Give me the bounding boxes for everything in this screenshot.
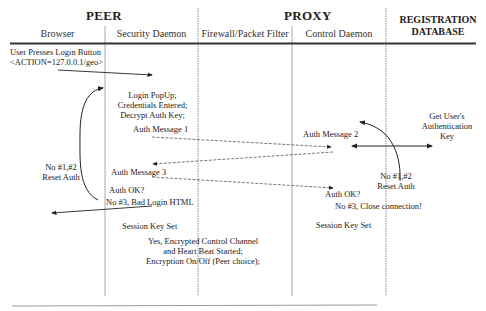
label-proxy-close-connection: No #3, Close connection! [335, 201, 422, 211]
group-label-registration-database: REGISTRATION DATABASE [393, 14, 483, 38]
label-peer-bad-login: No #3, Bad Login HTML [106, 197, 194, 207]
user-login-line-1: User Presses Login Button [10, 47, 103, 57]
arrow-to-proxy-auth-ok [152, 177, 333, 188]
column-browser: Browser [10, 28, 105, 39]
bottom-rule [12, 305, 377, 306]
label-peer-session-key: Session Key Set [122, 221, 177, 231]
proxy-reset-line-2: Reset Auth [370, 181, 422, 191]
column-control-daemon: Control Daemon [292, 28, 386, 39]
label-auth-message-3: Auth Message 3 [111, 167, 166, 177]
step-proxy-reset-auth: No #1,#2 Reset Auth [370, 171, 422, 191]
login-popup-line-2: Credentials Entered; [110, 100, 195, 110]
user-login-line-2: <ACTION=127.0.0.1/geo> [10, 57, 103, 67]
arrow-bad-login-to-browser [52, 206, 152, 213]
proxy-reset-line-1: No #1,#2 [370, 171, 422, 181]
encrypted-line-1: Yes, Encrypted Control Channel [128, 236, 278, 246]
login-popup-line-3: Decrypt Auth Key; [110, 110, 195, 120]
step-get-auth-key: Get User's Authentication Key [407, 111, 486, 141]
arrow-auth-message-3 [153, 152, 333, 164]
get-key-line-1: Get User's [407, 111, 486, 121]
encrypted-line-3: Encryption On/Off (Peer choice); [128, 256, 278, 266]
label-peer-auth-ok: Auth OK? [109, 185, 144, 195]
step-login-popup: Login PopUp; Credentials Entered; Decryp… [110, 90, 195, 120]
arrow-peer-reset-auth [80, 88, 103, 200]
peer-reset-line-2: Reset Auth [36, 172, 86, 182]
registration-line-2: DATABASE [393, 26, 483, 38]
label-auth-message-1: Auth Message 1 [133, 124, 188, 134]
registration-line-1: REGISTRATION [393, 14, 483, 26]
column-firewall-packet-filter: Firewall/Packet Filter [198, 28, 292, 39]
login-popup-line-1: Login PopUp; [110, 90, 195, 100]
label-proxy-session-key: Session Key Set [316, 220, 371, 230]
column-security-daemon: Security Daemon [105, 28, 198, 39]
get-key-line-2: Authentication [407, 121, 486, 131]
group-label-proxy: PROXY [284, 8, 332, 24]
step-encrypted-channel: Yes, Encrypted Control Channel and Heart… [128, 236, 278, 266]
peer-reset-line-1: No #1,#2 [36, 162, 86, 172]
step-peer-reset-auth: No #1,#2 Reset Auth [36, 162, 86, 182]
label-proxy-auth-ok: Auth OK? [325, 189, 360, 199]
group-label-peer: PEER [86, 8, 122, 24]
step-user-login: User Presses Login Button <ACTION=127.0.… [10, 47, 103, 67]
get-key-line-3: Key [407, 131, 486, 141]
label-auth-message-2: Auth Message 2 [303, 129, 358, 139]
encrypted-line-2: and Heart Beat Started; [128, 246, 278, 256]
